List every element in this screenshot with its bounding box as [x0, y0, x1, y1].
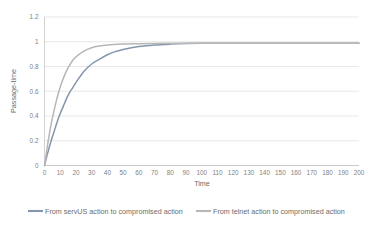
x-tick-label: 180 [322, 169, 333, 176]
x-tick-label: 150 [275, 169, 286, 176]
y-axis-tick-labels: 00.20.40.60.811.2 [30, 13, 39, 169]
x-tick-label: 40 [104, 169, 112, 176]
y-tick-label: 0.2 [30, 137, 39, 144]
x-tick-label: 130 [244, 169, 255, 176]
y-tick-label: 1 [35, 38, 39, 45]
y-tick-label: 0.4 [30, 112, 39, 119]
x-tick-label: 170 [306, 169, 317, 176]
legend-label: From servUS action to compromised action [45, 207, 183, 216]
chart-container: 00.20.40.60.811.2 0102030405060708090100… [0, 0, 372, 230]
series-line [45, 43, 360, 165]
x-tick-label: 100 [196, 169, 207, 176]
data-series-group [45, 43, 360, 165]
y-tick-label: 0.8 [30, 63, 39, 70]
gridlines [45, 17, 360, 166]
x-tick-label: 80 [167, 169, 175, 176]
y-axis-title: Passage-time [9, 69, 18, 113]
x-tick-label: 120 [228, 169, 239, 176]
x-tick-label: 190 [338, 169, 349, 176]
x-axis-title: Time [194, 179, 210, 188]
x-tick-label: 60 [135, 169, 143, 176]
y-tick-label: 0 [35, 162, 39, 169]
x-tick-label: 70 [151, 169, 159, 176]
y-tick-label: 0.6 [30, 88, 39, 95]
passage-time-line-chart: 00.20.40.60.811.2 0102030405060708090100… [0, 0, 372, 230]
x-tick-label: 10 [57, 169, 65, 176]
x-tick-label: 90 [182, 169, 190, 176]
x-tick-label: 30 [88, 169, 96, 176]
y-tick-label: 1.2 [30, 13, 39, 20]
x-tick-label: 200 [354, 169, 365, 176]
series-line [45, 43, 360, 165]
x-tick-label: 160 [291, 169, 302, 176]
x-tick-label: 0 [43, 169, 47, 176]
x-tick-label: 140 [259, 169, 270, 176]
x-tick-label: 110 [212, 169, 223, 176]
x-tick-label: 20 [72, 169, 80, 176]
legend-label: From telnet action to compromised action [213, 207, 345, 216]
x-tick-label: 50 [120, 169, 128, 176]
x-axis-tick-labels: 0102030405060708090100110120130140150160… [43, 169, 365, 176]
chart-legend: From servUS action to compromised action… [28, 207, 345, 216]
